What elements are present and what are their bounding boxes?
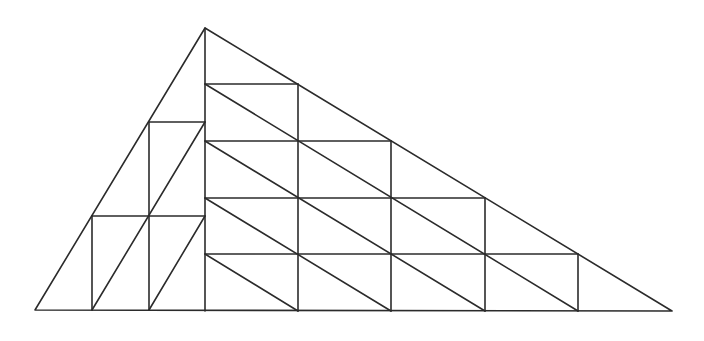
outer-triangle-outline [35, 28, 672, 311]
diagonal-line [205, 254, 298, 311]
diagonal-line [149, 216, 205, 310]
diagonal-line [205, 141, 485, 311]
left-subdivision [92, 122, 205, 310]
outer-triangle [35, 28, 672, 311]
triangle-grid-diagram [0, 0, 704, 341]
right-subdivision [205, 28, 578, 311]
